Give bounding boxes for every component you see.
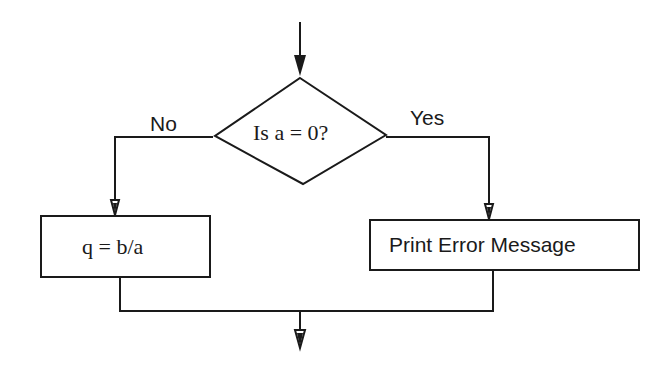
no-branch-label: No xyxy=(150,112,177,136)
flowchart-canvas: Is a = 0? No Yes q = b/a Print Error Mes… xyxy=(0,0,667,368)
process-yes-label: Print Error Message xyxy=(389,233,576,257)
entry-arrowhead xyxy=(294,55,306,76)
yes-branch-label: Yes xyxy=(410,106,444,130)
flowchart-lines xyxy=(0,0,667,368)
yes-branch-line xyxy=(386,137,489,216)
process-no-label: q = b/a xyxy=(82,234,143,260)
no-branch-line xyxy=(115,137,213,212)
decision-label: Is a = 0? xyxy=(253,120,328,146)
